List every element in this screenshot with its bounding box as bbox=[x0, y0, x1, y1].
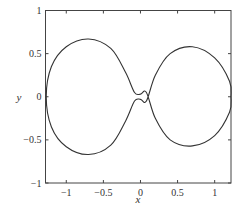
plot-area bbox=[46, 11, 232, 184]
y-tick-label: 0.5 bbox=[29, 48, 42, 59]
data-curve bbox=[46, 39, 231, 155]
x-tick-label: 1 bbox=[212, 187, 217, 198]
x-tick-label: −1 bbox=[61, 187, 72, 198]
y-tick-label: 0 bbox=[37, 91, 42, 102]
x-tick-label: 0.5 bbox=[171, 187, 184, 198]
y-axis-label: y bbox=[16, 91, 22, 103]
x-tick-label: −0.5 bbox=[94, 187, 112, 198]
x-axis-label: x bbox=[135, 193, 141, 205]
y-tick-label: 1 bbox=[37, 5, 42, 16]
chart: −1−0.500.51 10.50−0.5−1 x y bbox=[0, 0, 239, 212]
y-tick-label: −1 bbox=[31, 178, 42, 189]
y-ticks: 10.50−0.5−1 bbox=[23, 5, 231, 189]
y-tick-label: −0.5 bbox=[23, 134, 41, 145]
